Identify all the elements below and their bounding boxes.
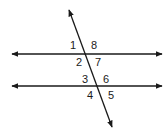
angle-label-4: 4 bbox=[87, 89, 93, 101]
angle-label-7: 7 bbox=[95, 56, 101, 68]
angle-labels: 1 8 2 7 3 6 4 5 bbox=[70, 39, 114, 101]
angle-label-2: 2 bbox=[76, 56, 82, 68]
angle-label-8: 8 bbox=[91, 39, 97, 51]
parallel-lines-transversal-diagram: 1 8 2 7 3 6 4 5 bbox=[0, 0, 168, 140]
diagram-svg: 1 8 2 7 3 6 4 5 bbox=[0, 0, 168, 140]
angle-label-1: 1 bbox=[70, 39, 76, 51]
angle-label-3: 3 bbox=[82, 73, 88, 85]
transversal-line bbox=[69, 10, 112, 127]
angle-label-6: 6 bbox=[103, 73, 109, 85]
angle-label-5: 5 bbox=[108, 89, 114, 101]
